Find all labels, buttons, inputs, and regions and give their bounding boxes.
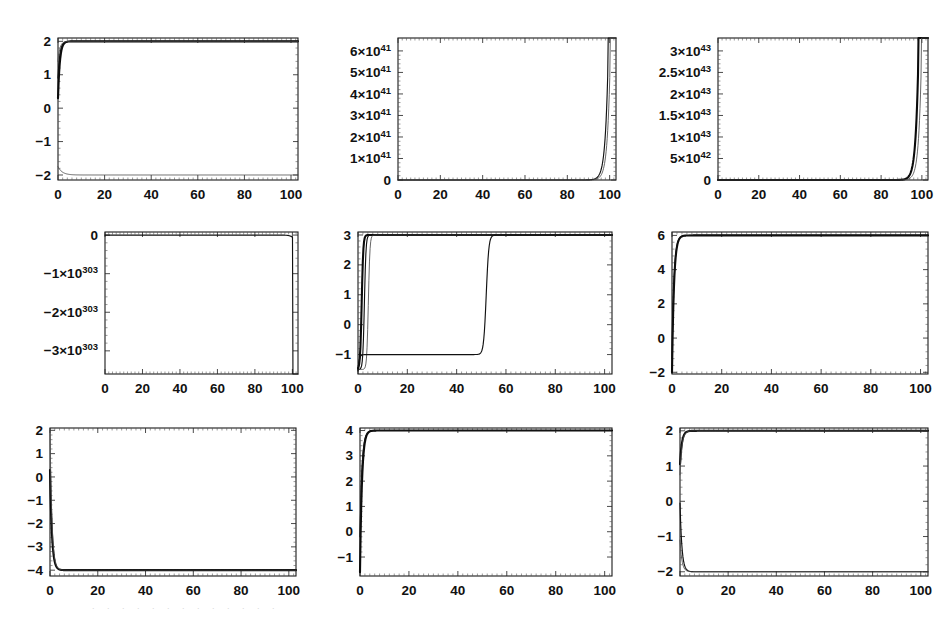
x-tick-label: 100 [280, 187, 303, 202]
data-curve [358, 235, 612, 370]
x-tick-label: 80 [548, 583, 563, 598]
x-tick-label: 20 [721, 583, 736, 598]
y-tick-label: −3 [28, 539, 44, 554]
data-curve [50, 430, 296, 570]
y-tick-label: −1 [36, 134, 52, 149]
data-curve [672, 235, 928, 358]
scan-artifact-marks: . . . . . . . . . . . . . [92, 601, 280, 611]
x-tick-label: 60 [817, 583, 832, 598]
plot-frame [398, 38, 616, 180]
x-tick-label: 80 [863, 381, 878, 396]
x-tick-label: 60 [499, 583, 514, 598]
x-tick-label: 40 [449, 381, 464, 396]
y-tick-label: −1 [28, 493, 44, 508]
data-curve [718, 38, 928, 180]
plot-frame [680, 428, 928, 576]
plot-frame [718, 38, 928, 180]
data-curve [358, 235, 612, 369]
y-tick-label: 3 [345, 448, 353, 463]
x-tick-label: 60 [814, 381, 829, 396]
x-tick-label: 40 [764, 381, 779, 396]
y-tick-label: 0 [343, 317, 351, 332]
y-tick-label: −1 [338, 550, 354, 565]
y-tick-label: 1 [345, 499, 353, 514]
x-tick-label: 0 [668, 381, 676, 396]
plot-panel-4[interactable]: 0204060801000−1×10303−2×10303−3×10303 [0, 218, 316, 404]
plot-frame [50, 428, 296, 576]
x-tick-label: 0 [714, 187, 722, 202]
x-tick-label: 100 [910, 583, 933, 598]
y-tick-label: −3×10303 [44, 341, 98, 358]
data-curve [358, 235, 612, 368]
y-tick-label: 0 [43, 101, 51, 116]
x-tick-label: 100 [598, 187, 621, 202]
plot-panel-3[interactable]: 02040608010005×10421×10431.5×10432×10432… [632, 22, 948, 208]
y-tick-label: 0 [35, 470, 43, 485]
plot-panel-1[interactable]: 020406080100−2−1012 [0, 22, 316, 208]
plot-area: 02040608010001×10412×10413×10414×10415×1… [316, 22, 632, 208]
data-curve [105, 235, 298, 374]
y-tick-label: 1 [665, 459, 673, 474]
x-tick-label: 20 [400, 381, 415, 396]
data-curve [58, 41, 298, 61]
y-tick-label: −4 [28, 563, 44, 578]
plot-panel-5[interactable]: 020406080100−10123 [316, 218, 632, 404]
x-tick-label: 40 [138, 583, 153, 598]
y-tick-label: 0 [90, 228, 98, 243]
data-curve [398, 38, 616, 180]
x-tick-label: 100 [593, 381, 616, 396]
x-tick-label: 80 [560, 187, 575, 202]
y-tick-label: 1×1043 [670, 128, 711, 145]
x-tick-label: 60 [190, 187, 205, 202]
x-tick-label: 40 [475, 187, 490, 202]
data-curve [680, 503, 928, 572]
x-tick-label: 20 [97, 187, 112, 202]
x-tick-label: 60 [498, 381, 513, 396]
plot-panel-6[interactable]: 020406080100−20246 [632, 218, 948, 404]
plot-area: 020406080100−101234 [316, 412, 632, 608]
x-tick-label: 0 [394, 187, 402, 202]
data-curve [360, 431, 612, 537]
y-tick-label: −2×10303 [44, 303, 98, 320]
y-tick-label: 0 [665, 494, 673, 509]
y-tick-label: 1.5×1043 [659, 106, 711, 123]
y-tick-label: −2 [658, 564, 673, 579]
x-tick-label: 100 [281, 381, 304, 396]
y-tick-label: 2 [35, 423, 43, 438]
y-tick-label: 1 [35, 446, 43, 461]
plot-area: 020406080100−2−1012 [0, 22, 316, 208]
x-tick-label: 20 [751, 187, 766, 202]
y-tick-label: 0 [345, 524, 353, 539]
x-tick-label: 100 [593, 583, 616, 598]
data-curve [680, 431, 928, 475]
data-curve [672, 235, 928, 372]
y-tick-label: 2 [657, 296, 665, 311]
plot-panel-9[interactable]: 020406080100−2−1012 [632, 412, 948, 608]
x-tick-label: 100 [909, 381, 932, 396]
y-tick-label: 5×1041 [350, 63, 392, 80]
data-curve [58, 41, 298, 98]
x-tick-label: 20 [135, 381, 150, 396]
x-tick-label: 80 [874, 187, 889, 202]
plot-panel-8[interactable]: 020406080100−101234 [316, 412, 632, 608]
x-tick-label: 20 [433, 187, 448, 202]
x-tick-label: 80 [234, 583, 249, 598]
x-tick-label: 0 [54, 187, 62, 202]
plot-area: 02040608010005×10421×10431.5×10432×10432… [632, 22, 948, 208]
x-tick-label: 20 [401, 583, 416, 598]
y-tick-label: 2.5×1043 [659, 63, 711, 80]
y-tick-label: 1 [43, 67, 51, 82]
data-curve [718, 38, 928, 180]
data-curve [680, 431, 928, 464]
plot-panel-7[interactable]: 020406080100−4−3−2−1012 [0, 412, 316, 608]
plot-area: 020406080100−4−3−2−1012 [0, 412, 316, 608]
data-curve [398, 38, 616, 180]
y-tick-label: −2 [28, 516, 43, 531]
y-tick-label: −1 [336, 347, 352, 362]
y-tick-label: −2 [650, 365, 665, 380]
x-tick-label: 80 [237, 187, 252, 202]
plot-panel-2[interactable]: 02040608010001×10412×10413×10414×10415×1… [316, 22, 632, 208]
figure-canvas: 020406080100−2−1012 02040608010001×10412… [0, 0, 948, 622]
data-curve [50, 470, 296, 570]
x-tick-label: 80 [548, 381, 563, 396]
